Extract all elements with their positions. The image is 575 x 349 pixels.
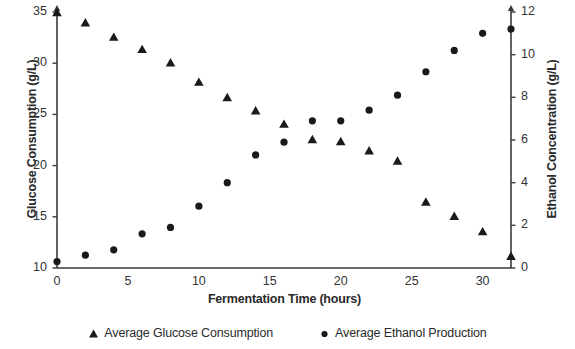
data-point: [166, 58, 176, 66]
data-series-layer: [52, 8, 516, 265]
chart-legend: Average Glucose Consumption Average Etha…: [0, 326, 575, 340]
data-point: [449, 212, 459, 220]
triangle-marker-icon: [88, 328, 99, 339]
data-point: [82, 252, 89, 259]
data-point: [337, 117, 344, 124]
data-point: [194, 77, 204, 85]
data-point: [421, 197, 431, 205]
data-point: [394, 92, 401, 99]
data-point: [110, 246, 117, 253]
legend-label-ethanol: Average Ethanol Production: [335, 326, 487, 340]
data-point: [336, 137, 346, 145]
plot-area: [0, 0, 575, 349]
data-point: [280, 139, 287, 146]
data-point: [479, 30, 486, 37]
data-point: [506, 252, 516, 260]
legend-entry-ethanol: Average Ethanol Production: [319, 326, 487, 340]
data-point: [364, 146, 374, 154]
data-point: [252, 151, 259, 158]
data-point: [224, 179, 231, 186]
data-point: [451, 47, 458, 54]
data-point: [279, 119, 289, 127]
data-point: [366, 107, 373, 114]
data-point: [507, 25, 514, 32]
chart-figure: Glucose Consumption (g/L) Ethanol Concen…: [0, 0, 575, 349]
data-point: [309, 117, 316, 124]
axis-lines: [54, 5, 514, 268]
data-point: [139, 230, 146, 237]
data-point: [478, 227, 488, 235]
data-point: [308, 135, 318, 143]
data-point: [251, 106, 261, 114]
data-point: [393, 156, 403, 164]
data-point: [137, 45, 147, 53]
data-point: [195, 203, 202, 210]
circle-marker-icon: [319, 328, 330, 339]
data-point: [109, 32, 119, 40]
legend-label-glucose: Average Glucose Consumption: [104, 326, 273, 340]
data-point: [167, 224, 174, 231]
series-glucose: [52, 8, 516, 260]
data-point: [222, 93, 232, 101]
data-point: [81, 18, 91, 26]
series-ethanol: [53, 25, 514, 265]
data-point: [422, 68, 429, 75]
data-point: [53, 258, 60, 265]
legend-entry-glucose: Average Glucose Consumption: [88, 326, 273, 340]
